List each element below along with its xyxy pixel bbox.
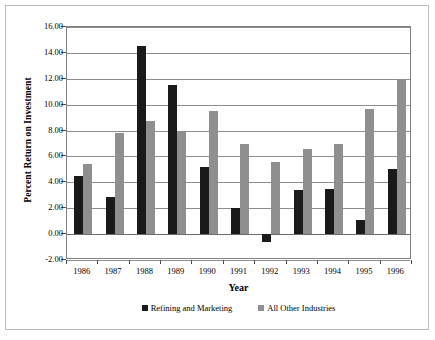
bar-1993-refining-and-marketing [294, 190, 303, 234]
bar-1989-refining-and-marketing [168, 85, 177, 234]
x-tick-mark [411, 260, 412, 264]
y-tick-label: -2.00 [17, 255, 63, 264]
bar-1987-all-other-industries [115, 133, 124, 234]
bar-1988-refining-and-marketing [137, 46, 146, 234]
bar-1993-all-other-industries [303, 149, 312, 234]
bar-1994-all-other-industries [334, 144, 343, 235]
y-tick-label: 8.00 [17, 126, 63, 135]
x-tick-mark [286, 260, 287, 264]
legend-swatch-icon [142, 305, 148, 311]
x-axis-title: Year [66, 282, 411, 293]
x-tick-mark [160, 260, 161, 264]
y-tick-label: 14.00 [17, 48, 63, 57]
bar-1987-refining-and-marketing [106, 197, 115, 235]
y-tick-label: 4.00 [17, 177, 63, 186]
gridline-0.00 [67, 234, 410, 235]
bar-1988-all-other-industries [146, 121, 155, 234]
legend-label: All Other Industries [267, 303, 335, 313]
bar-1990-refining-and-marketing [200, 167, 209, 234]
y-tick-label: 2.00 [17, 203, 63, 212]
gridline-12.00 [67, 79, 410, 80]
bar-1994-refining-and-marketing [325, 189, 334, 234]
bar-1992-all-other-industries [271, 162, 280, 234]
legend-entry: All Other Industries [258, 303, 335, 313]
gridline--2.00 [67, 260, 410, 261]
y-tick-label: 6.00 [17, 151, 63, 160]
x-tick-mark [97, 260, 98, 264]
x-tick-label-1996: 1996 [375, 266, 415, 276]
y-tick-label: 12.00 [17, 74, 63, 83]
x-tick-mark [129, 260, 130, 264]
x-tick-mark [254, 260, 255, 264]
bar-1995-all-other-industries [365, 109, 374, 235]
chart-figure: Percent Return on Investment 16.0014.001… [0, 0, 435, 340]
gridline-10.00 [67, 105, 410, 106]
bar-1992-refining-and-marketing [262, 234, 271, 242]
x-tick-mark [66, 260, 67, 264]
bar-1996-all-other-industries [397, 79, 406, 234]
y-tick-label: 16.00 [17, 22, 63, 31]
bar-1990-all-other-industries [209, 111, 218, 234]
bar-1991-all-other-industries [240, 144, 249, 235]
plot-area [66, 26, 411, 259]
bar-1986-all-other-industries [83, 164, 92, 234]
gridline-16.00 [67, 27, 410, 28]
x-tick-mark [348, 260, 349, 264]
bar-1991-refining-and-marketing [231, 208, 240, 234]
bar-1996-refining-and-marketing [388, 169, 397, 234]
legend-label: Refining and Marketing [151, 303, 233, 313]
x-tick-mark [191, 260, 192, 264]
bar-1989-all-other-industries [177, 132, 186, 234]
bar-1986-refining-and-marketing [74, 176, 83, 234]
gridline-14.00 [67, 53, 410, 54]
legend-swatch-icon [258, 305, 264, 311]
x-tick-mark [317, 260, 318, 264]
gridline-8.00 [67, 131, 410, 132]
legend-entry: Refining and Marketing [142, 303, 233, 313]
y-tick-label: 0.00 [17, 229, 63, 238]
x-tick-mark [223, 260, 224, 264]
y-tick-label: 10.00 [17, 100, 63, 109]
bar-1995-refining-and-marketing [356, 220, 365, 234]
x-tick-mark [380, 260, 381, 264]
chart-legend: Refining and MarketingAll Other Industri… [66, 303, 411, 313]
